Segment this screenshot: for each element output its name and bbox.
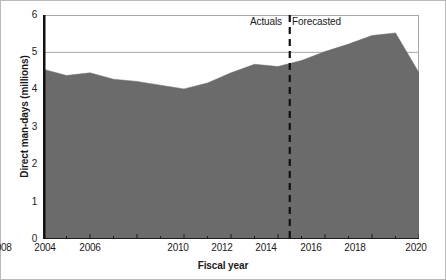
plot-area bbox=[43, 15, 419, 239]
y-tick-label-6: 6 bbox=[11, 10, 37, 20]
area-series-direct-man-days bbox=[43, 33, 419, 239]
chart-figure: Direct man-days (millions) 6 5 4 3 2 1 0… bbox=[0, 0, 446, 280]
y-tick-label-2: 2 bbox=[11, 159, 37, 169]
annotation-actuals: Actuals bbox=[250, 16, 282, 27]
x-tick-label-2016: 2016 bbox=[291, 242, 331, 253]
y-tick-label-5: 5 bbox=[11, 47, 37, 57]
x-axis-title: Fiscal year bbox=[1, 260, 445, 271]
x-tick-label-2020: 2020 bbox=[396, 242, 436, 253]
x-tick-label-2008: 2008 bbox=[0, 242, 21, 253]
y-tick-label-1: 1 bbox=[11, 197, 37, 207]
x-tick-label-2018: 2018 bbox=[335, 242, 375, 253]
x-tick-label-2010: 2010 bbox=[158, 242, 198, 253]
annotation-forecasted: Forecasted bbox=[292, 16, 341, 27]
x-tick-label-2014: 2014 bbox=[246, 242, 286, 253]
x-tick-label-2006: 2006 bbox=[70, 242, 110, 253]
y-tick-label-3: 3 bbox=[11, 122, 37, 132]
x-tick-label-2012: 2012 bbox=[202, 242, 242, 253]
x-tick-label-2004: 2004 bbox=[25, 242, 65, 253]
y-tick-label-4: 4 bbox=[11, 84, 37, 94]
area-chart-svg bbox=[43, 15, 419, 239]
